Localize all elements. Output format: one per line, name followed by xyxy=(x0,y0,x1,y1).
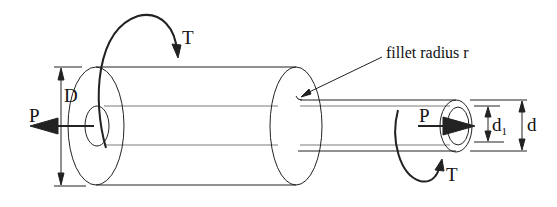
torque-label-bottom: T xyxy=(446,165,458,184)
bore-diameter-label: d1 xyxy=(492,115,507,137)
large-diameter-label: D xyxy=(64,86,78,105)
small-diameter-label: d xyxy=(527,115,537,134)
stepped-shaft-diagram: T D P fillet radius r P d1 d T xyxy=(0,0,557,207)
bore-diameter-symbol: d xyxy=(492,114,502,135)
large-cylinder-right-face xyxy=(270,67,322,185)
axial-load-label-right: P xyxy=(419,106,430,125)
bore-diameter-subscript: 1 xyxy=(502,125,508,137)
shaft-drawing xyxy=(0,0,557,207)
axial-load-label-left: P xyxy=(29,106,40,125)
torque-label-top: T xyxy=(182,28,194,47)
fillet-radius-note: fillet radius r xyxy=(386,45,469,61)
